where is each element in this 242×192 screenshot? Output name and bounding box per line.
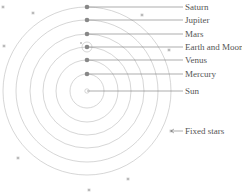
planet-venus-icon — [85, 58, 90, 63]
planet-saturn-icon — [85, 5, 90, 10]
star-icon — [168, 48, 171, 51]
label-fixed-stars: Fixed stars — [185, 126, 224, 136]
star-icon — [2, 5, 5, 8]
label-jupiter: Jupiter — [185, 15, 210, 25]
label-mercury: Mercury — [185, 69, 216, 79]
planet-jupiter-icon — [85, 18, 90, 23]
star-icon — [88, 188, 91, 191]
label-mars: Mars — [185, 29, 204, 39]
star-icon — [127, 177, 130, 180]
planet-earth-icon — [85, 45, 90, 50]
star-icon — [3, 44, 6, 47]
label-saturn: Saturn — [185, 2, 209, 12]
star-icon — [32, 11, 35, 14]
solar-system-diagram — [0, 0, 242, 192]
label-sun: Sun — [185, 86, 199, 96]
label-earth-and-moon: Earth and Moon — [185, 42, 242, 52]
moon-dot — [80, 42, 82, 44]
planet-mars-icon — [85, 32, 90, 37]
label-venus: Venus — [185, 55, 207, 65]
star-icon — [17, 156, 20, 159]
star-icon — [141, 13, 144, 16]
planet-mercury-icon — [85, 72, 90, 77]
